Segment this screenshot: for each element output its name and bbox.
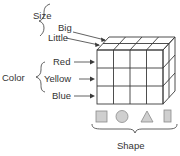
color-value-yellow: Yellow [44, 74, 71, 84]
square-icon [96, 111, 107, 122]
rectangle-icon [164, 110, 171, 122]
size-value-little: Little [48, 33, 68, 43]
cube [97, 37, 175, 104]
shape-brace-icon [92, 124, 177, 133]
size-arrows [66, 32, 105, 45]
color-dimension-label: Color [2, 73, 25, 83]
circle-icon [116, 111, 128, 123]
shape-dimension-label: Shape [117, 141, 144, 151]
triangle-icon [141, 111, 153, 122]
cube-graphic [0, 0, 180, 156]
color-value-blue: Blue [52, 91, 71, 101]
size-dimension-label: Size [33, 11, 51, 21]
color-value-red: Red [53, 57, 70, 67]
